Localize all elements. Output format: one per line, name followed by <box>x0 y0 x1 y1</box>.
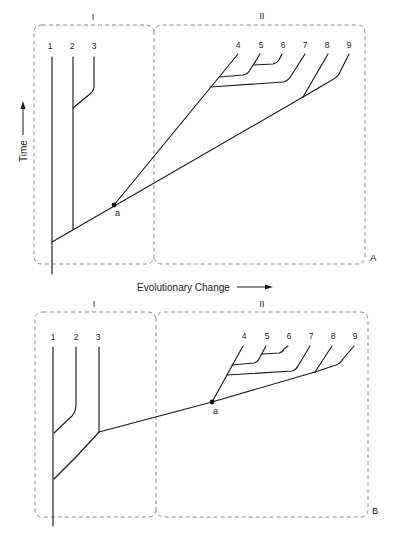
taxon-label-2: 2 <box>70 41 75 51</box>
panel-label-b: B <box>372 505 378 516</box>
region-label-II-b: II <box>259 299 264 309</box>
branch-9-b <box>315 346 354 372</box>
node-a-label-a: a <box>115 208 120 218</box>
branch-9-a <box>303 54 349 97</box>
panel-a: I II 1 2 3 4 5 6 7 8 9 a A <box>34 11 377 274</box>
taxon-label-2: 2 <box>74 332 79 342</box>
time-axis-label: Time <box>18 140 29 162</box>
branch-8-a <box>303 54 328 97</box>
main-lineage-a <box>52 97 303 242</box>
node-a-dot-a <box>112 203 117 208</box>
taxon-label-5: 5 <box>259 40 264 50</box>
branch-2-b <box>54 347 76 433</box>
node-a-dot-b <box>210 400 215 405</box>
phylogeny-figure: I II 1 2 3 4 5 6 7 8 9 a A Time Evolutio… <box>0 0 399 538</box>
region-label-I-a: I <box>92 12 95 22</box>
taxon-label-8: 8 <box>331 331 336 341</box>
branch-7-b <box>227 346 310 375</box>
taxon-label-9: 9 <box>347 40 352 50</box>
arrow-right-icon <box>265 285 273 290</box>
taxon-label-9: 9 <box>353 331 358 341</box>
taxon-label-4: 4 <box>236 40 241 50</box>
taxon-label-1: 1 <box>51 332 56 342</box>
panel-b: I II 1 2 3 4 5 6 7 8 9 a B <box>35 299 378 526</box>
taxon-label-3: 3 <box>96 332 101 342</box>
evolutionary-change-axis: Evolutionary Change <box>137 282 273 293</box>
taxon-label-1: 1 <box>48 41 53 51</box>
taxon-label-6: 6 <box>287 331 292 341</box>
taxon-label-6: 6 <box>281 40 286 50</box>
arrow-up-icon <box>21 101 26 109</box>
taxon-label-4: 4 <box>242 331 247 341</box>
time-axis: Time <box>18 101 29 162</box>
evolutionary-change-label: Evolutionary Change <box>137 282 230 293</box>
branch-6-a <box>254 54 282 65</box>
taxon-label-7: 7 <box>303 40 308 50</box>
taxon-label-5: 5 <box>265 331 270 341</box>
region-label-II-a: II <box>259 11 264 21</box>
branch-3-a <box>73 57 94 108</box>
taxon-label-3: 3 <box>92 41 97 51</box>
region-box-b <box>35 312 368 517</box>
region-box-a <box>34 25 365 264</box>
region-label-I-b: I <box>93 299 96 309</box>
panel-label-a: A <box>370 252 377 263</box>
node-a-label-b: a <box>213 406 218 416</box>
taxon-label-7: 7 <box>309 331 314 341</box>
branch-3-stem-b <box>54 432 99 479</box>
branch-8-b <box>315 346 332 372</box>
taxon-label-8: 8 <box>325 40 330 50</box>
main-lineage-b <box>99 372 315 432</box>
